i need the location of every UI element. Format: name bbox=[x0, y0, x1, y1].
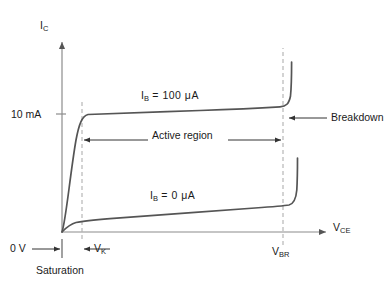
breakdown-region-label: Breakdown bbox=[331, 112, 384, 123]
active-region-label: Active region bbox=[152, 130, 213, 141]
y-tick-label-10ma: 10 mA bbox=[11, 109, 41, 120]
saturation-region-label: Saturation bbox=[36, 265, 84, 276]
x-axis-label: VCE bbox=[333, 222, 350, 233]
y-axis-label: IC bbox=[40, 20, 48, 31]
curve-label-ib-100ua: IB = 100 μA bbox=[141, 90, 199, 101]
breakdown-voltage-label: VBR bbox=[272, 246, 289, 257]
knee-voltage-label: VK bbox=[94, 243, 106, 254]
origin-label-0v: 0 V bbox=[10, 243, 26, 254]
curve-label-ib-0ua: IB = 0 μA bbox=[150, 190, 195, 201]
